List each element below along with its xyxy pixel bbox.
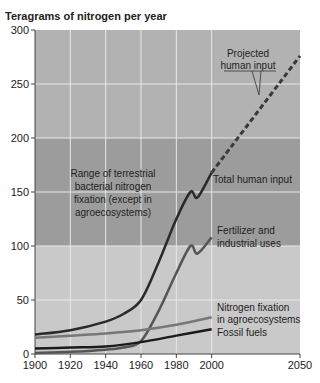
x-tick-label: 1940: [93, 359, 117, 371]
total-label: Total human input: [213, 174, 292, 185]
projected-label: Projectedhuman input: [220, 48, 275, 71]
agro-label: Nitrogen fixationin agroecosystems: [217, 302, 300, 325]
x-tick-label: 1920: [58, 359, 82, 371]
x-tick-label: 1980: [164, 359, 188, 371]
x-tick-label: 2050: [288, 359, 312, 371]
y-tick-label: 150: [11, 186, 29, 198]
y-tick-label: 200: [11, 132, 29, 144]
y-tick-label: 50: [17, 294, 29, 306]
x-tick-label: 1960: [129, 359, 153, 371]
y-tick-label: 300: [11, 24, 29, 36]
nitrogen-chart: 0501001502002503001900192019401960198020…: [0, 0, 320, 383]
fossil-label: Fossil fuels: [217, 327, 267, 338]
y-tick-label: 100: [11, 240, 29, 252]
y-tick-label: 250: [11, 78, 29, 90]
x-tick-label: 2000: [199, 359, 223, 371]
x-tick-label: 1900: [23, 359, 47, 371]
